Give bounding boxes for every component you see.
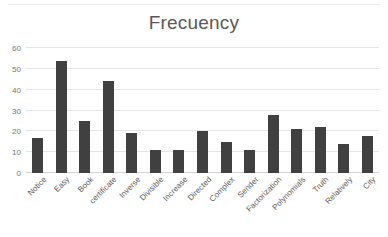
x-axis-tick-label: Truth bbox=[311, 175, 330, 194]
bar[interactable] bbox=[268, 115, 279, 173]
x-axis: NoticeEasyBookcertificateInverseDivisibl… bbox=[26, 173, 379, 233]
bar[interactable] bbox=[197, 131, 208, 173]
bar[interactable] bbox=[32, 138, 43, 173]
y-axis-tick-label: 10 bbox=[12, 148, 21, 157]
bar[interactable] bbox=[126, 133, 137, 173]
x-axis-tick-text: Notice bbox=[26, 175, 48, 197]
x-axis-tick-text: Book bbox=[76, 175, 95, 194]
bar[interactable] bbox=[150, 150, 161, 173]
x-axis-tick-text: Easy bbox=[53, 175, 72, 194]
y-axis-tick-label: 20 bbox=[12, 127, 21, 136]
x-axis-tick-label: Divisible bbox=[138, 175, 165, 202]
x-axis-tick-label: Easy bbox=[53, 175, 72, 194]
y-axis: 0102030405060 bbox=[0, 48, 24, 173]
chart-title: Frecuency bbox=[0, 11, 388, 35]
y-axis-tick-label: 40 bbox=[12, 85, 21, 94]
bar[interactable] bbox=[315, 127, 326, 173]
bar[interactable] bbox=[103, 81, 114, 173]
y-axis-tick-label: 50 bbox=[12, 64, 21, 73]
bar[interactable] bbox=[291, 129, 302, 173]
bars-group bbox=[26, 48, 379, 173]
x-axis-tick-label: Increase bbox=[161, 175, 189, 203]
x-axis-tick-label: City bbox=[361, 175, 377, 191]
bar[interactable] bbox=[221, 142, 232, 173]
top-divider bbox=[8, 4, 380, 5]
x-axis-tick-text: Increase bbox=[161, 175, 189, 203]
bar[interactable] bbox=[79, 121, 90, 173]
x-axis-tick-label: Notice bbox=[26, 175, 48, 197]
bar[interactable] bbox=[173, 150, 184, 173]
bar[interactable] bbox=[362, 136, 373, 174]
bar[interactable] bbox=[244, 150, 255, 173]
bar-chart: Frecuency 0102030405060 NoticeEasyBookce… bbox=[0, 0, 388, 237]
plot-area bbox=[26, 48, 379, 173]
y-axis-tick-label: 0 bbox=[17, 169, 21, 178]
bar[interactable] bbox=[56, 61, 67, 174]
bar[interactable] bbox=[338, 144, 349, 173]
x-axis-tick-text: Truth bbox=[311, 175, 330, 194]
y-axis-tick-label: 60 bbox=[12, 44, 21, 53]
x-axis-tick-label: Book bbox=[76, 175, 95, 194]
x-axis-tick-text: City bbox=[361, 175, 377, 191]
y-axis-tick-label: 30 bbox=[12, 106, 21, 115]
x-axis-tick-text: Divisible bbox=[138, 175, 165, 202]
